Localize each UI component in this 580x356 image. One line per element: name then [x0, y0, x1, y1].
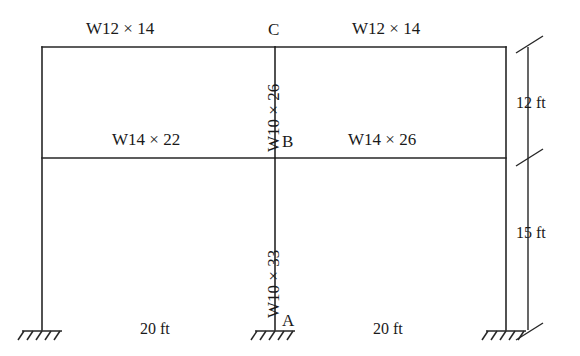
frame-geometry [0, 0, 580, 356]
beam-label-top-right: W12 × 14 [352, 20, 420, 37]
joint-label-a: A [282, 312, 294, 329]
beam-label-mid-left: W14 × 22 [112, 131, 180, 148]
dimension-tick-top [516, 36, 543, 53]
dimension-line-vertical [516, 36, 543, 340]
support-center-fixed [251, 331, 295, 340]
dimension-label-bay-left: 20 ft [140, 321, 170, 337]
structural-frame-diagram: W12 × 14 W12 × 14 W14 × 22 W14 × 26 W10 … [0, 0, 580, 356]
dimension-label-bay-right: 20 ft [373, 321, 403, 337]
dimension-tick-middle [516, 149, 543, 166]
support-left-fixed [18, 331, 62, 340]
column-label-center-lower: W10 × 33 [265, 250, 282, 318]
dimension-label-upper-storey: 12 ft [516, 95, 546, 111]
column-label-center-upper: W10 × 26 [265, 84, 282, 152]
joint-label-b: B [282, 133, 293, 150]
beam-label-top-left: W12 × 14 [86, 20, 154, 37]
joint-label-c: C [268, 21, 279, 38]
dimension-label-lower-storey: 15 ft [516, 225, 546, 241]
beam-label-mid-right: W14 × 26 [348, 131, 416, 148]
